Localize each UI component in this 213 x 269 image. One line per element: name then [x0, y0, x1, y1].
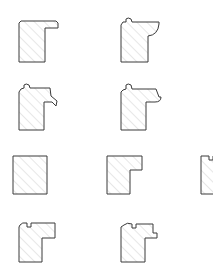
profile-4-2-outline	[121, 223, 157, 262]
profile-3-3	[198, 148, 213, 196]
profile-1-1	[16, 14, 60, 64]
profile-2-1-outline	[19, 84, 57, 130]
profile-3-1-outline	[13, 156, 47, 194]
profile-2-2-drawing	[118, 80, 164, 132]
profile-chart-canvas	[0, 0, 213, 269]
profile-1-1-drawing	[16, 14, 60, 64]
profile-row-3	[0, 148, 213, 196]
profile-2-1-drawing	[16, 80, 60, 132]
profile-4-2	[118, 214, 162, 264]
profile-3-3-drawing	[198, 148, 213, 196]
profile-3-2-drawing	[104, 148, 148, 196]
profile-4-1	[16, 214, 60, 264]
profile-1-1-outline	[19, 21, 58, 62]
profile-row-1	[0, 14, 213, 64]
profile-2-2	[118, 80, 164, 132]
profile-3-1	[10, 148, 54, 196]
profile-1-2-outline	[121, 18, 159, 62]
profile-row-4	[0, 214, 213, 264]
profile-3-1-drawing	[10, 148, 54, 196]
profile-3-3-outline	[201, 156, 213, 194]
profile-2-1	[16, 80, 60, 132]
profile-1-2	[118, 14, 162, 64]
profile-3-2	[104, 148, 148, 196]
profile-1-2-drawing	[118, 14, 162, 64]
profile-row-2	[0, 80, 213, 132]
profile-3-2-outline	[107, 156, 142, 194]
profile-4-1-outline	[19, 223, 55, 262]
profile-4-2-drawing	[118, 214, 162, 264]
profile-2-2-outline	[121, 84, 161, 130]
profile-4-1-drawing	[16, 214, 60, 264]
